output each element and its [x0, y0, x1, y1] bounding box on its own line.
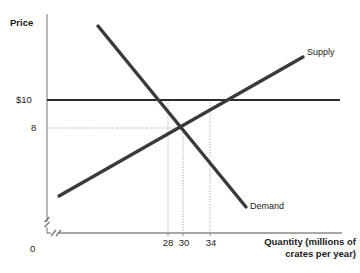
chart-canvas: [0, 0, 360, 273]
y-axis-title: Price: [10, 17, 33, 28]
y-tick-label-10: $10: [16, 94, 32, 105]
x-axis-title: Quantity (millions of crates per year): [234, 236, 356, 259]
demand-curve: [98, 26, 246, 207]
x-tick-label-28: 28: [163, 237, 174, 248]
demand-curve-label: Demand: [250, 201, 284, 212]
origin-label: 0: [30, 243, 35, 254]
x-tick-label-30: 30: [179, 237, 190, 248]
supply-demand-chart: Price $10 8 0 28 30 34 Supply Demand Qua…: [0, 0, 360, 273]
x-tick-label-34: 34: [206, 237, 217, 248]
supply-curve-label: Supply: [307, 47, 335, 58]
y-tick-label-8: 8: [31, 122, 36, 133]
